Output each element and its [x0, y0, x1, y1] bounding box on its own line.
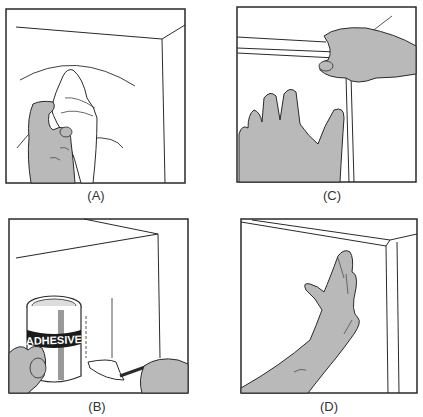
panel-a: [5, 8, 187, 185]
panel-d-caption: (D): [299, 399, 359, 414]
panel-a-illustration: [5, 8, 187, 185]
panel-b: ADHESIVE: [8, 218, 190, 395]
panel-a-caption: (A): [66, 188, 126, 203]
panel-c-caption: (C): [302, 188, 362, 203]
panel-c: [236, 6, 418, 184]
panel-c-illustration: [236, 6, 418, 184]
panel-d-illustration: [240, 218, 418, 395]
panel-b-caption: (B): [67, 399, 127, 414]
panel-b-illustration: ADHESIVE: [8, 218, 190, 395]
can-label: ADHESIVE: [26, 333, 83, 347]
panel-d: [240, 218, 418, 395]
